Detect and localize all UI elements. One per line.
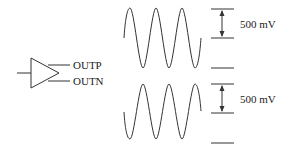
- outn-sine-wave: [124, 84, 201, 139]
- outn-amplitude-scale: [211, 84, 234, 143]
- outp-amplitude-label: 500 mV: [240, 19, 276, 30]
- outp-amplitude-scale: [211, 9, 234, 68]
- outp-label: OUTP: [73, 60, 102, 71]
- outp-sine-wave: [124, 8, 201, 68]
- outn-label: OUTN: [73, 76, 104, 87]
- buffer-triangle-icon: [31, 58, 59, 88]
- outn-amplitude-label: 500 mV: [240, 94, 276, 105]
- amplifier-symbol: [17, 58, 70, 88]
